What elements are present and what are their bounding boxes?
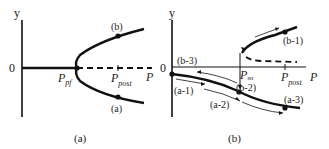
panel-a: y 0 (b) (a) Ppf Ppost P (a) <box>9 6 154 145</box>
origin-label: 0 <box>160 61 166 75</box>
origin-label: 0 <box>9 61 15 75</box>
unstable-branch <box>246 57 297 62</box>
label-a3: (a-3) <box>284 94 303 106</box>
label-b3: (b-3) <box>177 55 197 67</box>
point-b1 <box>282 29 287 34</box>
x-axis-label: P <box>145 70 154 84</box>
bifurcation-diagram: y 0 (b) (a) Ppf Ppost P (a) y 0 P <box>0 0 329 149</box>
p-sn-label: Psn <box>239 68 254 82</box>
arrowhead-icon <box>235 97 240 101</box>
branch-b-label: (b) <box>111 21 123 33</box>
x-axis-label: P <box>309 70 318 84</box>
label-a1: (a-1) <box>174 85 193 97</box>
caption-b: (b) <box>228 132 241 145</box>
point-a3 <box>282 105 287 110</box>
arrowhead-icon <box>275 28 279 32</box>
branch-a-label: (a) <box>111 103 122 115</box>
y-axis-label: y <box>14 6 20 20</box>
bifurcation-point <box>74 65 79 70</box>
arrowhead-icon <box>279 111 283 115</box>
point-b <box>115 33 120 38</box>
arrow-b3-icon <box>197 72 237 83</box>
label-b1: (b-1) <box>283 35 303 47</box>
arrowhead-icon <box>201 82 205 86</box>
y-axis-label: y <box>169 6 175 20</box>
p-post-label: Ppost <box>110 71 132 88</box>
arrowhead-icon <box>197 70 201 74</box>
pitchfork-branch <box>76 29 144 103</box>
point-a1 <box>169 71 174 76</box>
panel-b: y 0 P (b-3) (b-1) (b-2) (a-1) <box>160 6 318 145</box>
label-b2: (b-2) <box>236 82 256 94</box>
point-a <box>115 94 120 99</box>
label-a2: (a-2) <box>210 99 229 111</box>
p-post-label: Ppost <box>280 70 302 87</box>
p-pf-label: Ppf <box>57 71 73 87</box>
caption-a: (a) <box>74 132 87 145</box>
